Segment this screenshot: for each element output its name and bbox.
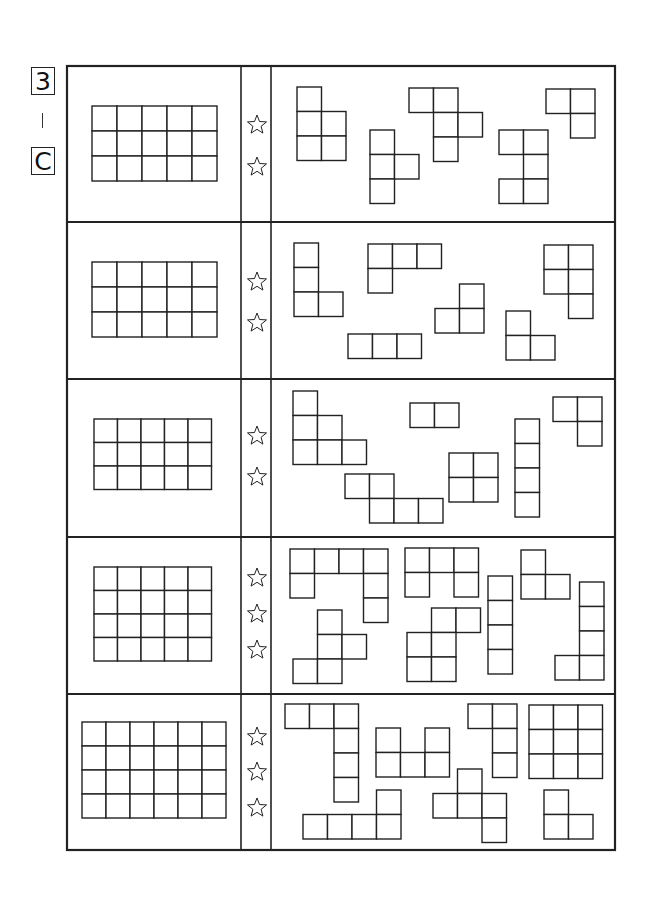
grid-cell[interactable] xyxy=(94,567,118,591)
grid-cell[interactable] xyxy=(142,312,167,337)
grid-cell[interactable] xyxy=(167,287,192,312)
grid-cell[interactable] xyxy=(154,794,178,818)
grid-cell[interactable] xyxy=(92,106,117,131)
grid-cell[interactable] xyxy=(154,746,178,770)
grid-cell[interactable] xyxy=(94,614,118,638)
grid-cell[interactable] xyxy=(178,746,202,770)
grid-cell[interactable] xyxy=(165,466,189,490)
grid-cell[interactable] xyxy=(167,156,192,181)
grid-cell[interactable] xyxy=(118,466,142,490)
grid-cell[interactable] xyxy=(192,131,217,156)
grid-cell[interactable] xyxy=(167,312,192,337)
puzzle-piece[interactable] xyxy=(376,728,450,777)
grid-cell[interactable] xyxy=(142,156,167,181)
grid-cell[interactable] xyxy=(92,131,117,156)
puzzle-piece[interactable] xyxy=(506,311,555,360)
grid-cell[interactable] xyxy=(92,287,117,312)
puzzle-piece[interactable] xyxy=(435,284,484,333)
puzzle-piece[interactable] xyxy=(405,548,479,597)
grid-cell[interactable] xyxy=(92,262,117,287)
grid-cell[interactable] xyxy=(118,567,142,591)
grid-cell[interactable] xyxy=(188,419,212,443)
puzzle-piece[interactable] xyxy=(285,704,359,802)
puzzle-piece[interactable] xyxy=(449,453,498,502)
grid-cell[interactable] xyxy=(94,419,118,443)
puzzle-piece[interactable] xyxy=(293,391,367,465)
puzzle-piece[interactable] xyxy=(468,704,517,778)
grid-cell[interactable] xyxy=(94,638,118,662)
grid-cell[interactable] xyxy=(92,156,117,181)
grid-cell[interactable] xyxy=(94,591,118,615)
grid-cell[interactable] xyxy=(82,746,106,770)
grid-cell[interactable] xyxy=(178,770,202,794)
puzzle-piece[interactable] xyxy=(433,769,507,843)
grid-cell[interactable] xyxy=(165,638,189,662)
grid-cell[interactable] xyxy=(82,722,106,746)
puzzle-piece[interactable] xyxy=(553,397,602,446)
grid-cell[interactable] xyxy=(165,419,189,443)
grid-cell[interactable] xyxy=(154,770,178,794)
grid-cell[interactable] xyxy=(94,443,118,467)
puzzle-piece[interactable] xyxy=(409,88,483,162)
grid-cell[interactable] xyxy=(167,262,192,287)
grid-cell[interactable] xyxy=(165,614,189,638)
puzzle-piece[interactable] xyxy=(345,474,443,523)
puzzle-piece[interactable] xyxy=(515,419,540,517)
grid-cell[interactable] xyxy=(167,131,192,156)
grid-cell[interactable] xyxy=(178,722,202,746)
grid-cell[interactable] xyxy=(106,770,130,794)
grid-cell[interactable] xyxy=(118,591,142,615)
puzzle-piece[interactable] xyxy=(499,130,548,204)
puzzle-piece[interactable] xyxy=(529,705,603,779)
grid-cell[interactable] xyxy=(117,262,142,287)
puzzle-piece[interactable] xyxy=(368,244,442,293)
grid-cell[interactable] xyxy=(165,443,189,467)
grid-cell[interactable] xyxy=(192,287,217,312)
grid-cell[interactable] xyxy=(130,770,154,794)
grid-cell[interactable] xyxy=(118,443,142,467)
grid-cell[interactable] xyxy=(141,567,165,591)
grid-cell[interactable] xyxy=(142,287,167,312)
grid-cell[interactable] xyxy=(192,156,217,181)
grid-cell[interactable] xyxy=(142,131,167,156)
puzzle-piece[interactable] xyxy=(544,790,593,839)
puzzle-piece[interactable] xyxy=(348,334,422,359)
grid-cell[interactable] xyxy=(165,591,189,615)
puzzle-piece[interactable] xyxy=(544,245,593,319)
grid-cell[interactable] xyxy=(192,312,217,337)
grid-cell[interactable] xyxy=(202,722,226,746)
grid-cell[interactable] xyxy=(82,794,106,818)
grid-cell[interactable] xyxy=(118,614,142,638)
grid-cell[interactable] xyxy=(178,794,202,818)
grid-cell[interactable] xyxy=(141,638,165,662)
grid-cell[interactable] xyxy=(188,614,212,638)
puzzle-piece[interactable] xyxy=(407,608,481,682)
grid-cell[interactable] xyxy=(141,614,165,638)
grid-cell[interactable] xyxy=(202,746,226,770)
grid-cell[interactable] xyxy=(202,794,226,818)
grid-cell[interactable] xyxy=(118,638,142,662)
grid-cell[interactable] xyxy=(141,419,165,443)
grid-cell[interactable] xyxy=(130,794,154,818)
grid-cell[interactable] xyxy=(117,312,142,337)
grid-cell[interactable] xyxy=(188,591,212,615)
puzzle-piece[interactable] xyxy=(488,576,513,674)
grid-cell[interactable] xyxy=(142,262,167,287)
grid-cell[interactable] xyxy=(117,287,142,312)
grid-cell[interactable] xyxy=(188,443,212,467)
grid-cell[interactable] xyxy=(92,312,117,337)
grid-cell[interactable] xyxy=(165,567,189,591)
grid-cell[interactable] xyxy=(202,770,226,794)
grid-cell[interactable] xyxy=(142,106,167,131)
puzzle-piece[interactable] xyxy=(410,403,459,428)
grid-cell[interactable] xyxy=(141,591,165,615)
grid-cell[interactable] xyxy=(167,106,192,131)
puzzle-piece[interactable] xyxy=(294,243,343,317)
grid-cell[interactable] xyxy=(117,131,142,156)
grid-cell[interactable] xyxy=(106,746,130,770)
grid-cell[interactable] xyxy=(130,722,154,746)
grid-cell[interactable] xyxy=(117,106,142,131)
grid-cell[interactable] xyxy=(82,770,106,794)
grid-cell[interactable] xyxy=(154,722,178,746)
grid-cell[interactable] xyxy=(188,466,212,490)
